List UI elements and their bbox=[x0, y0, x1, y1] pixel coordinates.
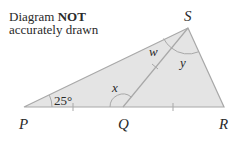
angle-label-y: y bbox=[178, 55, 186, 70]
vertex-label-s: S bbox=[184, 8, 192, 24]
triangle-diagram: 25° x w y P Q R S bbox=[0, 0, 237, 141]
vertex-label-p: P bbox=[18, 116, 28, 132]
angle-label-p: 25° bbox=[54, 93, 72, 108]
angle-label-w: w bbox=[149, 44, 158, 59]
angle-label-x: x bbox=[111, 80, 118, 95]
vertex-label-r: R bbox=[218, 116, 228, 132]
vertex-label-q: Q bbox=[118, 116, 129, 132]
